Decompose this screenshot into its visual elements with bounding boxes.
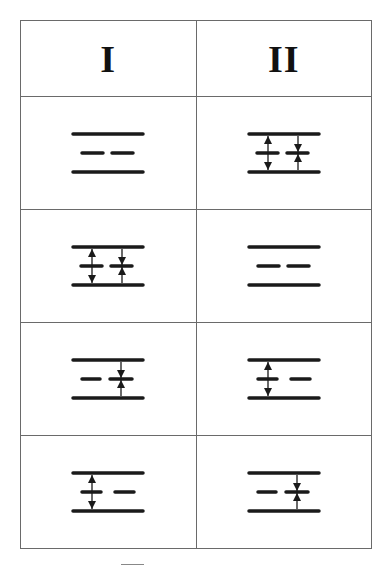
plates-no-arrows-icon: [244, 241, 324, 291]
cropped-mark: [121, 564, 144, 565]
header-row: I II: [21, 21, 372, 97]
plates-no-arrows-icon: [68, 128, 148, 178]
table-row: [21, 436, 372, 549]
cell-row1-col1: [21, 97, 197, 210]
table-row: [21, 97, 372, 210]
plates-right-converging-arrows-icon: [244, 467, 324, 517]
comparison-table: I II: [20, 20, 372, 549]
column-header-1: I: [21, 21, 197, 97]
plates-left-double-arrow-icon: [68, 467, 148, 517]
column-header-2: II: [196, 21, 372, 97]
cell-row3-col1: [21, 323, 197, 436]
cell-row2-col2: [196, 210, 372, 323]
plates-both-arrows-icon: [244, 128, 324, 178]
cell-row4-col2: [196, 436, 372, 549]
plates-right-converging-arrows-icon: [68, 354, 148, 404]
cell-row3-col2: [196, 323, 372, 436]
table-row: [21, 323, 372, 436]
cell-row2-col1: [21, 210, 197, 323]
cell-row4-col1: [21, 436, 197, 549]
table-row: [21, 210, 372, 323]
cell-row1-col2: [196, 97, 372, 210]
plates-both-arrows-icon: [68, 241, 148, 291]
plates-left-double-arrow-icon: [244, 354, 324, 404]
column-header-label: II: [268, 38, 300, 80]
column-header-label: I: [100, 38, 116, 80]
